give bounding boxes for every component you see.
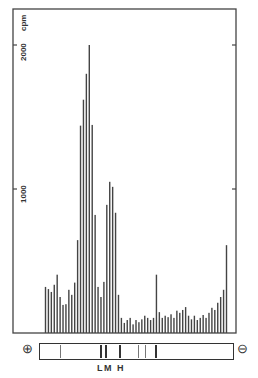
gel-band-M	[105, 345, 108, 358]
bar	[226, 245, 227, 333]
bar	[159, 312, 160, 333]
bar	[71, 295, 72, 333]
bar	[214, 310, 215, 333]
bar	[106, 205, 107, 333]
bar	[129, 318, 130, 333]
bar	[135, 320, 136, 333]
bar	[80, 126, 81, 333]
y-tick-label-2000: 2000	[19, 43, 28, 61]
bar	[100, 297, 101, 333]
y-unit-label: cpm	[19, 15, 28, 31]
anode-symbol: ⊕	[22, 341, 33, 356]
bar	[103, 282, 104, 333]
gel-band	[138, 345, 139, 358]
gel-band	[155, 345, 157, 358]
bar	[147, 318, 148, 333]
bar	[205, 318, 206, 333]
bar	[164, 316, 165, 333]
bar	[179, 313, 180, 333]
bar	[200, 318, 201, 333]
bar	[124, 323, 125, 333]
bars-group	[45, 45, 227, 333]
bar	[51, 292, 52, 333]
bar	[45, 287, 46, 333]
bar	[202, 315, 203, 333]
cathode-symbol: ⊖	[237, 341, 248, 356]
bar	[220, 297, 221, 333]
bar	[83, 100, 84, 333]
band-label-M: M	[104, 363, 112, 373]
bar	[86, 74, 87, 333]
bar	[92, 125, 93, 333]
bar	[56, 275, 57, 333]
bar	[89, 45, 90, 333]
bar	[150, 320, 151, 333]
bar	[132, 324, 133, 333]
band-label-H: H	[117, 363, 124, 373]
bar	[138, 322, 139, 333]
bar	[223, 290, 224, 333]
bar	[118, 295, 119, 333]
bar	[211, 308, 212, 333]
bar	[68, 290, 69, 333]
bar	[194, 316, 195, 333]
bar	[109, 182, 110, 333]
bar-chart	[0, 0, 258, 340]
bar	[191, 319, 192, 333]
bar	[127, 320, 128, 333]
bar	[197, 320, 198, 333]
bar	[77, 240, 78, 333]
gel-band	[60, 345, 61, 358]
bar	[48, 289, 49, 333]
bar	[141, 319, 142, 333]
y-tick-label-1000: 1000	[19, 185, 28, 203]
bar	[153, 318, 154, 333]
bar	[188, 316, 189, 333]
bar	[144, 316, 145, 333]
bar	[54, 285, 55, 333]
bar	[94, 215, 95, 333]
bar	[121, 318, 122, 333]
bar	[217, 303, 218, 333]
band-label-L: L	[97, 363, 103, 373]
bar	[167, 317, 168, 333]
bar	[185, 307, 186, 333]
bar	[176, 311, 177, 333]
bar	[112, 187, 113, 333]
bar	[59, 297, 60, 333]
bar	[173, 318, 174, 333]
gel-strip	[39, 343, 234, 360]
bar	[182, 310, 183, 333]
gel-band	[145, 345, 146, 358]
gel-band-H	[119, 345, 122, 358]
bar	[162, 318, 163, 333]
bar	[208, 313, 209, 333]
bar	[62, 305, 63, 333]
bar	[156, 275, 157, 333]
bar	[65, 304, 66, 333]
gel-band-L	[100, 345, 103, 358]
bar	[97, 287, 98, 333]
bar	[74, 283, 75, 333]
plot-frame	[13, 9, 236, 333]
bar	[170, 314, 171, 333]
bar	[115, 213, 116, 333]
